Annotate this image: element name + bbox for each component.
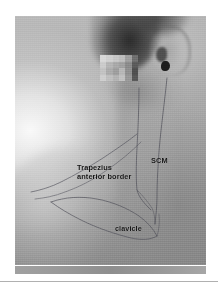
label-scm: SCM — [151, 157, 168, 166]
page-canvas: Trapezius anterior border SCM clavicle — [0, 0, 218, 287]
photo-ear — [149, 26, 191, 76]
clinical-photograph: Trapezius anterior border SCM clavicle — [15, 16, 206, 265]
footer-divider-rule — [0, 281, 218, 282]
label-clavicle: clavicle — [115, 225, 142, 233]
footer-shadow-band — [15, 266, 206, 274]
label-trapezius-line2: anterior border — [77, 173, 131, 182]
photo-ear-canal — [156, 47, 167, 62]
label-trapezius-anterior-border: Trapezius anterior border — [77, 164, 131, 181]
